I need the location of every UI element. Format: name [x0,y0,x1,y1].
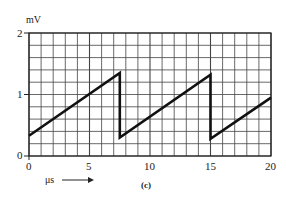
x-tick-5: 5 [86,160,92,172]
chart-canvas: mV 2 1 0 0 5 10 15 20 μs (c) [0,0,286,203]
x-tick-15: 15 [205,160,217,172]
grid [29,33,271,156]
y-tick-1: 1 [17,88,23,100]
figure-caption: (c) [141,180,151,190]
y-tick-2: 2 [17,27,23,39]
x-tick-10: 10 [144,160,156,172]
x-axis-arrow-icon [62,177,94,183]
x-tick-0: 0 [26,160,32,172]
y-axis-unit: mV [26,14,42,25]
x-axis-unit: μs [45,174,54,185]
y-tick-0: 0 [17,149,23,161]
x-tick-20: 20 [265,160,277,172]
